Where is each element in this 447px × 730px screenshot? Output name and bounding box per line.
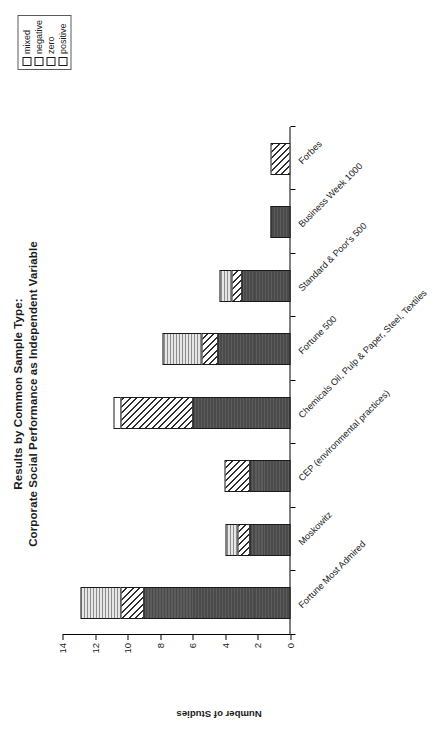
category-tick — [290, 571, 295, 572]
value-axis-title: Number of Studies — [176, 709, 261, 720]
value-tick — [160, 635, 161, 640]
chart-subtitle: Corporate Social Performance as Independ… — [25, 114, 40, 674]
legend-label-zero: zero — [45, 36, 55, 54]
bar-stack — [225, 460, 290, 492]
category-tick — [290, 444, 295, 445]
chart-page: Results by Common Sample Type: Corporate… — [0, 0, 447, 730]
category-label: Fortune Most Admired — [296, 539, 367, 610]
value-tick — [290, 635, 291, 640]
legend-label-positive: positive — [57, 23, 67, 54]
bar-stack — [81, 587, 290, 619]
bar-segment-positive — [270, 206, 290, 238]
value-tick-label: 10 — [122, 643, 133, 661]
category-label: Business Week 1000 — [296, 161, 364, 229]
bar-segment-zero — [120, 587, 144, 619]
legend-item-mixed: mixed — [21, 20, 31, 66]
bar-segment-zero — [231, 270, 242, 302]
value-tick — [225, 635, 226, 640]
value-tick — [192, 635, 193, 640]
category-axis-line — [289, 127, 290, 635]
bar-stack — [271, 143, 290, 175]
category-label: Moskowitz — [296, 509, 333, 546]
bar-segment-positive — [143, 587, 290, 619]
category-label: Forbes — [296, 139, 323, 166]
bar-segment-positive — [249, 460, 290, 492]
bar-segment-zero — [270, 143, 290, 175]
bar-segment-mixed — [80, 587, 121, 619]
bar-segment-positive — [241, 270, 290, 302]
value-tick-label: 4 — [219, 643, 230, 661]
value-tick — [127, 635, 128, 640]
value-axis-line — [62, 634, 290, 635]
chart-title-block: Results by Common Sample Type: Corporate… — [10, 114, 39, 674]
bar-stack — [220, 270, 290, 302]
value-tick-label: 8 — [154, 643, 165, 661]
bar-segment-mixed — [162, 333, 203, 365]
category-tick — [290, 634, 295, 635]
figure-canvas: Results by Common Sample Type: Corporate… — [0, 0, 447, 730]
bar-segment-positive — [249, 524, 290, 556]
bar-segment-zero — [224, 460, 250, 492]
value-tick-label: 0 — [285, 643, 296, 661]
category-tick — [290, 317, 295, 318]
legend-item-zero: zero — [45, 20, 55, 66]
category-label: Fortune 500 — [296, 314, 338, 356]
legend-label-mixed: mixed — [21, 30, 31, 54]
legend-label-negative: negative — [33, 20, 43, 54]
value-tick-label: 14 — [57, 643, 68, 661]
bar-segment-mixed — [225, 524, 238, 556]
bar-stack — [163, 333, 290, 365]
bar-segment-positive — [217, 333, 290, 365]
chart-legend: mixed negative zero positive — [17, 15, 71, 70]
bar-segment-mixed — [219, 270, 232, 302]
legend-swatch-positive-icon — [58, 57, 67, 66]
legend-swatch-mixed-icon — [22, 57, 31, 66]
value-tick — [95, 635, 96, 640]
value-tick-label: 6 — [187, 643, 198, 661]
bar-stack — [114, 397, 290, 429]
category-tick — [290, 507, 295, 508]
value-tick — [62, 635, 63, 640]
legend-item-negative: negative — [33, 20, 43, 66]
category-tick — [290, 380, 295, 381]
rotated-figure: Results by Common Sample Type: Corporate… — [0, 0, 447, 730]
legend-swatch-negative-icon — [34, 57, 43, 66]
value-tick-label: 2 — [252, 643, 263, 661]
bar-segment-zero — [237, 524, 250, 556]
legend-item-positive: positive — [57, 20, 67, 66]
category-tick — [290, 190, 295, 191]
category-label: Chemicals Oil, Pulp & Paper, Steel, Text… — [296, 288, 428, 420]
value-tick-label: 12 — [89, 643, 100, 661]
bar-segment-positive — [192, 397, 290, 429]
category-label: Standard & Poor's 500 — [296, 221, 368, 293]
plot-area: 02468101214 Fortune Most AdmiredMoskowit… — [62, 127, 290, 635]
bar-stack — [226, 524, 290, 556]
category-tick — [290, 253, 295, 254]
bar-segment-zero — [120, 397, 193, 429]
legend-swatch-zero-icon — [46, 57, 55, 66]
bar-segment-zero — [201, 333, 217, 365]
chart-title: Results by Common Sample Type: — [10, 114, 25, 674]
bar-stack — [271, 206, 290, 238]
value-tick — [257, 635, 258, 640]
category-tick — [290, 126, 295, 127]
